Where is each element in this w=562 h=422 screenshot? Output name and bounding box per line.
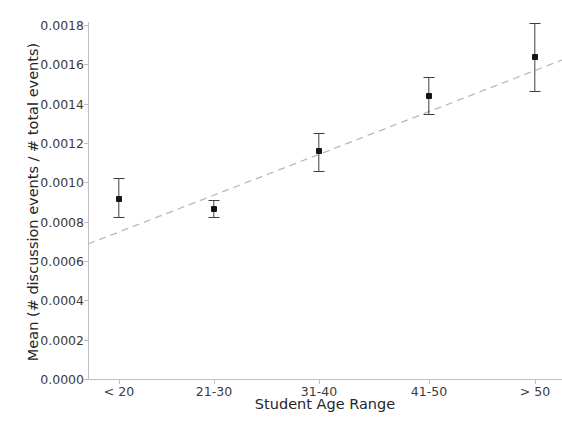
y-tick-label: 0.0012 (28, 136, 84, 151)
y-tick-label: 0.0004 (28, 293, 84, 308)
y-tick-label: 0.0008 (28, 214, 84, 229)
y-tick-label: 0.0006 (28, 254, 84, 269)
data-point-marker (211, 206, 217, 212)
y-tick-label: 0.0018 (28, 18, 84, 33)
y-tick-label: 0.0016 (28, 57, 84, 72)
error-bar-cap-bottom (114, 217, 125, 218)
error-bar-cap-bottom (209, 217, 220, 218)
data-point-marker (116, 196, 122, 202)
error-bar-cap-bottom (424, 114, 435, 115)
error-bar-cap-top (114, 178, 125, 179)
data-point-marker (426, 93, 432, 99)
chart-figure: Mean (# discussion events / # total even… (0, 0, 562, 422)
y-axis-ticks: 0.0000 0.0002 0.0004 0.0006 0.0008 0.001… (22, 0, 84, 422)
trend-line (0, 0, 562, 422)
x-axis-label: Student Age Range (88, 396, 562, 412)
error-bar-cap-top (530, 23, 541, 24)
x-axis-spine (88, 379, 562, 380)
error-bar-cap-top (209, 200, 220, 201)
y-tick-label: 0.0010 (28, 175, 84, 190)
data-point-marker (316, 148, 322, 154)
error-bar-cap-top (314, 133, 325, 134)
y-tick-label: 0.0000 (28, 372, 84, 387)
error-bar-cap-bottom (314, 171, 325, 172)
y-tick-label: 0.0002 (28, 332, 84, 347)
error-bar-cap-bottom (530, 91, 541, 92)
data-point-marker (532, 54, 538, 60)
y-axis-spine (88, 22, 89, 380)
y-tick-label: 0.0014 (28, 96, 84, 111)
error-bar-cap-top (424, 77, 435, 78)
